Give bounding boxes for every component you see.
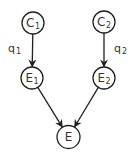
node-label-subscript: 2 bbox=[106, 21, 111, 30]
edge-label-subscript: 2 bbox=[122, 47, 127, 56]
node-label-subscript: 2 bbox=[106, 77, 111, 86]
node-e: E bbox=[57, 126, 80, 149]
node-c2: C2 bbox=[93, 11, 115, 33]
causal-diagram: C1C2E1E2E q1q2 bbox=[0, 0, 137, 158]
node-label-text: E bbox=[25, 71, 33, 85]
node-e1: E1 bbox=[21, 67, 43, 89]
edge-label-subscript: 1 bbox=[16, 47, 21, 56]
edge-label-c1-e1: q1 bbox=[8, 42, 21, 56]
edge-label-text: q bbox=[114, 42, 121, 55]
node-label-text: C bbox=[26, 16, 34, 30]
edge-labels-layer: q1q2 bbox=[8, 42, 127, 56]
node-label-subscript: 1 bbox=[35, 22, 40, 31]
node-e2: E2 bbox=[93, 67, 115, 89]
node-c1: C1 bbox=[22, 12, 44, 34]
node-label-text: E bbox=[97, 71, 105, 85]
node-label: E bbox=[65, 130, 73, 144]
edge-e1-to-e bbox=[38, 87, 62, 126]
nodes-layer: C1C2E1E2E bbox=[21, 11, 115, 149]
node-label-text: E bbox=[65, 130, 73, 144]
edge-label-text: q bbox=[8, 42, 15, 55]
node-label-subscript: 1 bbox=[34, 77, 39, 86]
edge-e2-to-e bbox=[75, 87, 99, 126]
node-label-text: C bbox=[97, 15, 105, 29]
edge-label-c2-e2: q2 bbox=[114, 42, 127, 56]
edge-c1-to-e1 bbox=[32, 34, 33, 67]
